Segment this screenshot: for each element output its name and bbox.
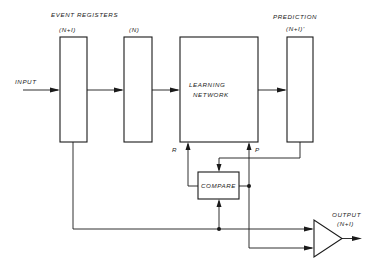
p-to-output-arrow-icon [304,246,314,251]
prediction-box [287,37,313,142]
network-to-prediction-arrow-icon [277,88,287,93]
input-arrow-icon [50,88,60,93]
junction-to-compare-arrow-icon [217,199,222,207]
input-label: INPUT [15,78,37,85]
event-registers-heading: EVENT REGISTERS [51,11,118,18]
reg1-to-reg2-arrow-icon [114,88,124,93]
register-n-label: (N) [129,26,139,33]
prediction-to-compare-arrow-icon [217,164,222,172]
p-junction-dot [247,184,251,188]
output-heading: OUTPUT [332,211,362,218]
register-n-plus-1-label: (N+I) [59,26,76,33]
learning-network-label-line1: LEARNING [189,81,225,88]
r-feedback-line [188,144,198,186]
learning-system-diagram: EVENT REGISTERS (N+I) (N) PREDICTION (N+… [0,0,384,270]
register-to-output-arrow-icon [304,227,314,232]
p-arrow-icon [247,142,252,150]
reg2-to-network-arrow-icon [170,88,180,93]
learning-network-label-line2: NETWORK [193,91,229,98]
compare-label: COMPARE [201,182,236,189]
prediction-label: (N+I)' [286,25,305,32]
learning-network-box [180,37,258,142]
r-label: R [172,146,177,153]
output-arrow-icon [352,236,362,241]
output-label: (N+I) [337,220,354,227]
r-arrow-icon [186,142,191,150]
prediction-heading: PREDICTION [273,13,317,20]
p-label: P [255,146,260,153]
register-to-output-line [73,142,312,229]
register-n-box [124,37,152,142]
register-n-plus-1-box [60,37,87,142]
